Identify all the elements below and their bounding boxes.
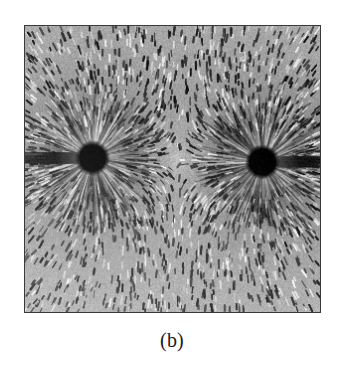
photograph-frame	[24, 25, 321, 313]
figure-caption: (b)	[0, 328, 344, 352]
figure-panel: (b)	[0, 0, 344, 366]
field-lines-photograph	[25, 26, 320, 312]
